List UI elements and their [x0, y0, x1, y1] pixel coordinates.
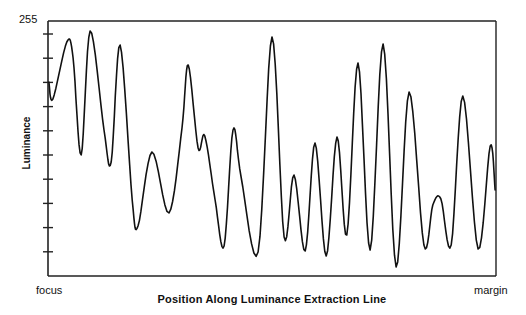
y-axis-title: Luminance [21, 117, 32, 170]
y-max-label: 255 [19, 13, 37, 25]
x-end-label: margin [474, 284, 508, 296]
luminance-line [49, 31, 495, 267]
x-axis-title: Position Along Luminance Extraction Line [158, 293, 387, 305]
line-chart [0, 0, 526, 315]
x-start-label: focus [36, 284, 62, 296]
